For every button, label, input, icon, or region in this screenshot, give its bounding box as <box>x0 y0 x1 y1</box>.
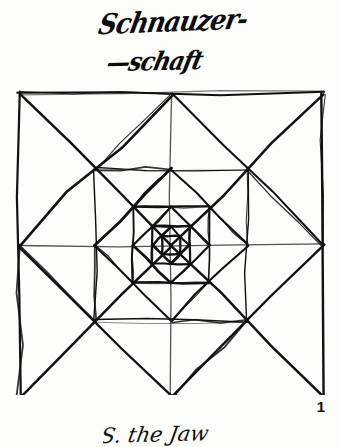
page-number: 1 <box>317 398 325 415</box>
figure-guide-lines <box>19 94 323 395</box>
nested-squares-diagram <box>0 90 341 395</box>
handwritten-title: Schnauzer- —schaft <box>0 6 341 90</box>
footer-handwriting: S. the Jaw <box>103 424 341 447</box>
title-line-1: Schnauzer- <box>96 2 250 41</box>
footer-note-text: S. the Jaw <box>103 424 341 447</box>
title-line-2: —schaft <box>104 44 206 77</box>
geometric-figure <box>0 90 341 395</box>
scanned-page: Schnauzer- —schaft 1 S. the Jaw <box>0 0 341 447</box>
